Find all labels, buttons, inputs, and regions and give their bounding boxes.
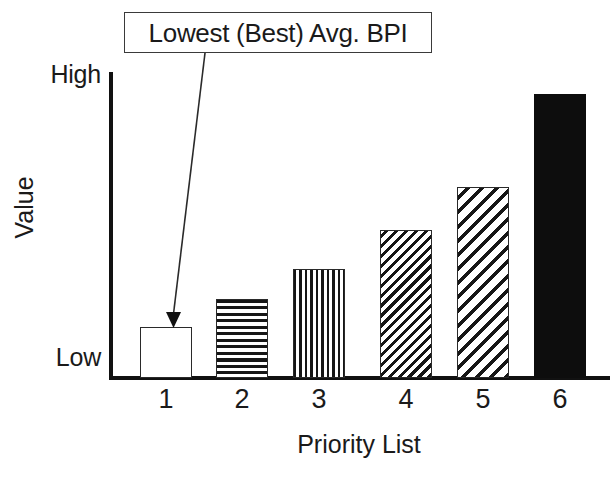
x-axis-title: Priority List bbox=[109, 432, 609, 457]
bar-1 bbox=[140, 327, 192, 378]
y-axis-high-label: High bbox=[0, 62, 101, 87]
callout-label: Lowest (Best) Avg. BPI bbox=[149, 20, 408, 46]
x-tick-label-3: 3 bbox=[293, 386, 345, 413]
y-axis-line bbox=[109, 72, 113, 380]
bar-5 bbox=[457, 187, 509, 378]
bar-3 bbox=[293, 269, 345, 378]
y-axis-low-label: Low bbox=[0, 345, 101, 370]
y-axis-title: Value bbox=[12, 148, 37, 268]
x-tick-label-1: 1 bbox=[140, 386, 192, 413]
bar-4 bbox=[380, 230, 432, 378]
x-tick-label-5: 5 bbox=[457, 386, 509, 413]
x-tick-label-6: 6 bbox=[534, 386, 586, 413]
bar-chart: High Low Value 1 2 3 4 5 6 Priority List… bbox=[0, 0, 615, 481]
x-tick-label-2: 2 bbox=[216, 386, 268, 413]
x-tick-label-4: 4 bbox=[380, 386, 432, 413]
bar-2 bbox=[216, 299, 268, 378]
bar-6 bbox=[534, 94, 586, 378]
callout-box: Lowest (Best) Avg. BPI bbox=[124, 12, 432, 53]
